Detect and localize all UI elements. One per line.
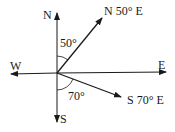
angle-50-label: 50°	[60, 37, 77, 49]
angle-arc-50	[57, 56, 68, 60]
east-axis	[57, 72, 166, 73]
north-label: N	[43, 9, 52, 21]
bearing-s70e-arrow	[57, 73, 121, 97]
east-label: E	[158, 59, 165, 71]
south-label: S	[60, 113, 67, 125]
west-axis	[11, 73, 57, 74]
bearing-s70e-label: S 70° E	[127, 94, 164, 106]
compass-graphic	[0, 0, 175, 132]
compass-diagram: N S W E N 50° E S 70° E 50° 70°	[0, 0, 175, 132]
west-label: W	[10, 60, 21, 72]
bearing-n50e-label: N 50° E	[104, 5, 143, 17]
angle-70-label: 70°	[68, 90, 85, 102]
